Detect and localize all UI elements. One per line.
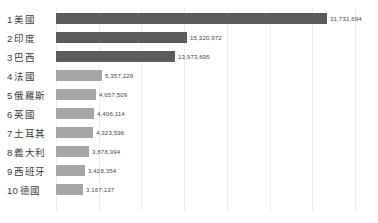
bar-country-name: 土耳其 [14, 128, 45, 139]
bar-value-label: 3,878,994 [92, 148, 120, 155]
bar-value-label: 4,657,509 [99, 91, 127, 98]
bar-category-label: 7土耳其 [0, 126, 52, 140]
bar [56, 127, 93, 138]
bar [56, 184, 83, 195]
bar [56, 70, 102, 81]
bar [56, 165, 85, 176]
bar-category-label: 4法國 [0, 69, 52, 83]
bar-category-label: 2印度 [0, 31, 52, 45]
bar-country-name: 德國 [20, 185, 40, 196]
bar-rank: 9 [7, 166, 12, 177]
bar-track: 3,167,137 [56, 180, 376, 199]
bar-value-label: 15,320,972 [190, 34, 222, 41]
bar-rank: 1 [7, 14, 12, 25]
bar-country-name: 印度 [14, 33, 34, 44]
bar-country-name: 巴西 [14, 52, 34, 63]
bar-category-label: 1美國 [0, 12, 52, 26]
bar-value-label: 13,973,695 [178, 53, 210, 60]
bar-category-label: 5俄羅斯 [0, 88, 52, 102]
bar [56, 146, 89, 157]
bar-chart: 1美國31,731,6942印度15,320,9723巴西13,973,6954… [0, 0, 378, 223]
bar [56, 32, 187, 43]
bar-track: 13,973,695 [56, 47, 376, 66]
bar-rank: 3 [7, 52, 12, 63]
bar-row: 2印度15,320,972 [0, 28, 378, 47]
bar-country-name: 義大利 [14, 147, 45, 158]
bar [56, 89, 96, 100]
bar-rank: 4 [7, 71, 12, 82]
bar-track: 4,657,509 [56, 85, 376, 104]
bar-category-label: 9西班牙 [0, 164, 52, 178]
bar-value-label: 3,167,137 [86, 186, 114, 193]
bar-value-label: 4,406,114 [97, 110, 125, 117]
bar-rank: 5 [7, 90, 12, 101]
bar-country-name: 西班牙 [14, 166, 45, 177]
bar-row: 5俄羅斯4,657,509 [0, 85, 378, 104]
bar-value-label: 3,428,354 [88, 167, 116, 174]
bar-row: 6英國4,406,114 [0, 104, 378, 123]
bar-row: 1美國31,731,694 [0, 9, 378, 28]
bar-country-name: 美國 [14, 14, 34, 25]
bar-country-name: 俄羅斯 [14, 90, 45, 101]
bar-row: 4法國5,357,229 [0, 66, 378, 85]
bar-category-label: 6英國 [0, 107, 52, 121]
bar-value-label: 5,357,229 [105, 72, 133, 79]
bar-row: 7土耳其4,323,596 [0, 123, 378, 142]
bar [56, 13, 327, 24]
bar-category-label: 8義大利 [0, 145, 52, 159]
bar-category-label: 3巴西 [0, 50, 52, 64]
bar-value-label: 31,731,694 [330, 15, 362, 22]
bar-rank: 8 [7, 147, 12, 158]
bar-rank: 2 [7, 33, 12, 44]
bar-row: 3巴西13,973,695 [0, 47, 378, 66]
bar-track: 5,357,229 [56, 66, 376, 85]
bar-row: 8義大利3,878,994 [0, 142, 378, 161]
bar-rank: 10 [7, 185, 18, 196]
chart-plot-area: 1美國31,731,6942印度15,320,9723巴西13,973,6954… [0, 9, 378, 205]
bar-rank: 6 [7, 109, 12, 120]
bar [56, 51, 175, 62]
bar-row: 9西班牙3,428,354 [0, 161, 378, 180]
bar-track: 3,428,354 [56, 161, 376, 180]
bar [56, 108, 94, 119]
bar-country-name: 法國 [14, 71, 34, 82]
bar-rank: 7 [7, 128, 12, 139]
bar-category-label: 10德國 [0, 183, 52, 197]
bar-track: 31,731,694 [56, 9, 376, 28]
bar-value-label: 4,323,596 [96, 129, 124, 136]
bar-track: 4,323,596 [56, 123, 376, 142]
bar-track: 4,406,114 [56, 104, 376, 123]
bar-row: 10德國3,167,137 [0, 180, 378, 199]
bar-track: 15,320,972 [56, 28, 376, 47]
bar-country-name: 英國 [14, 109, 34, 120]
bar-track: 3,878,994 [56, 142, 376, 161]
